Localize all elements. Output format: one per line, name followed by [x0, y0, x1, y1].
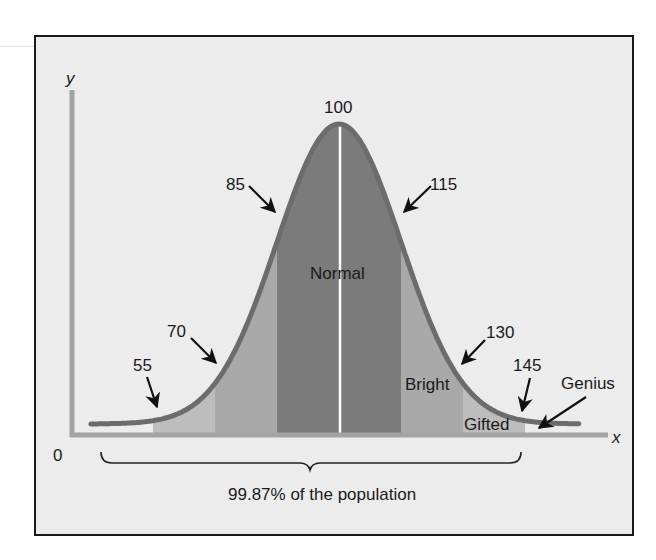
label-100: 100 [324, 98, 352, 117]
label-55: 55 [133, 356, 152, 375]
label-70: 70 [167, 322, 186, 341]
band-label-genius: Genius [561, 374, 615, 393]
arrow-55 [147, 377, 157, 407]
band-label-normal: Normal [310, 264, 365, 283]
arrow-130 [462, 340, 485, 364]
y-axis-label: y [65, 69, 76, 88]
arrow-145 [522, 378, 530, 411]
origin-label: 0 [53, 446, 62, 465]
arrow-115 [404, 186, 431, 212]
label-115: 115 [430, 175, 457, 194]
band-130-145 [463, 119, 525, 434]
band-label-bright: Bright [405, 375, 450, 394]
band-label-gifted: Gifted [464, 415, 509, 434]
label-85: 85 [226, 175, 245, 194]
label-145: 145 [513, 356, 541, 375]
arrow-85 [249, 186, 275, 212]
population-label: 99.87% of the population [228, 485, 416, 504]
population-brace [101, 452, 521, 470]
arrow-70 [191, 338, 216, 363]
x-axis-label: x [611, 428, 621, 447]
normal-distribution-chart: y x 0 55 70 85 100 115 130 145 Normal Br… [0, 0, 656, 560]
label-130: 130 [486, 323, 514, 342]
band-55-70 [153, 119, 215, 434]
